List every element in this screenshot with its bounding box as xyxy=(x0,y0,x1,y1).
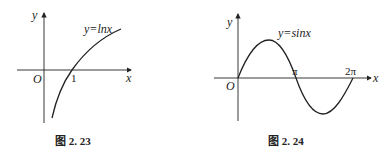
sinx-curve xyxy=(238,40,353,114)
tick-label-1: 1 xyxy=(71,72,77,84)
chart-sinx: y x O π 2π y=sinx 图 2. 24 xyxy=(214,14,379,147)
x-axis-label: x xyxy=(125,71,132,85)
lnx-curve xyxy=(52,29,121,118)
origin-label: O xyxy=(226,79,235,93)
x-axis-label: x xyxy=(372,71,379,85)
function-label: y=lnx xyxy=(83,22,113,36)
figure-caption: 图 2. 24 xyxy=(268,135,304,147)
tick-label-2pi: 2π xyxy=(345,65,357,77)
origin-label: O xyxy=(33,72,42,86)
figure-canvas: y x O 1 y=lnx 图 2. 23 y x O π 2π y=sinx … xyxy=(0,0,388,156)
y-axis-label: y xyxy=(226,15,233,29)
tick-label-pi: π xyxy=(292,65,298,77)
y-axis-label: y xyxy=(31,8,38,22)
function-label: y=sinx xyxy=(277,26,311,40)
figure-caption: 图 2. 23 xyxy=(55,135,91,147)
chart-lnx: y x O 1 y=lnx 图 2. 23 xyxy=(17,8,132,147)
